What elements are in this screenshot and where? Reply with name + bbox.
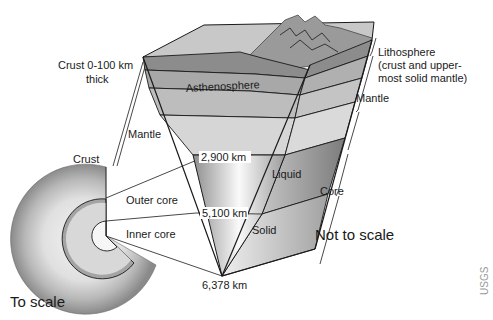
lithosphere-label-3: most solid mantle) — [378, 72, 467, 84]
not-to-scale-label: Not to scale — [315, 226, 394, 243]
crust-thickness-label: Crust 0-100 km — [58, 59, 133, 71]
core-right-label: Core — [320, 185, 344, 197]
depth-5100-label: 5,100 km — [202, 207, 247, 219]
solid-label: Solid — [252, 224, 276, 236]
earth-structure-diagram: Crust 0-100 km thick Mantle Crust Asthen… — [0, 0, 493, 320]
credit-label: USGS — [479, 266, 490, 295]
depth-6378-label: 6,378 km — [202, 279, 247, 291]
liquid-label: Liquid — [272, 168, 301, 180]
inner-core-label: Inner core — [126, 228, 176, 240]
crust-thickness-label-2: thick — [86, 73, 109, 85]
mantle-left-label: Mantle — [128, 128, 161, 140]
inner-core-disc — [92, 221, 117, 251]
to-scale-label: To scale — [10, 293, 65, 310]
crust-left-label: Crust — [73, 153, 99, 165]
outer-core-label: Outer core — [126, 194, 178, 206]
mantle-right-label: Mantle — [356, 92, 389, 104]
lithosphere-label: Lithosphere — [378, 46, 436, 58]
lithosphere-label-2: (crust and upper- — [378, 59, 462, 71]
depth-2900-label: 2,900 km — [201, 151, 246, 163]
